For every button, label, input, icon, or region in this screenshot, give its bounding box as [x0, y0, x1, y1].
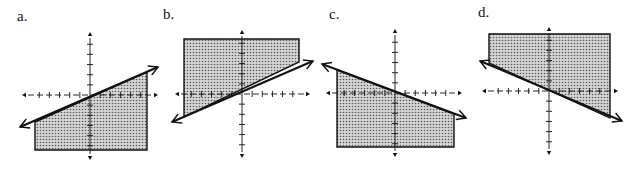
y-axis-up-arrow-icon: [88, 32, 92, 36]
x-axis-right-arrow-icon: [306, 92, 310, 96]
x-axis-left-arrow-icon: [482, 89, 486, 93]
y-axis-down-arrow-icon: [547, 151, 551, 155]
graph-c: [322, 29, 466, 157]
shaded-region: [35, 72, 147, 150]
y-axis-down-arrow-icon: [240, 154, 244, 158]
shaded-region: [489, 34, 610, 118]
x-axis-left-arrow-icon: [326, 91, 330, 95]
shaded-region: [184, 39, 299, 117]
graph-a: [20, 32, 158, 160]
x-axis-left-arrow-icon: [22, 93, 26, 97]
y-axis-up-arrow-icon: [393, 29, 397, 33]
x-axis-left-arrow-icon: [175, 92, 179, 96]
y-axis-down-arrow-icon: [88, 156, 92, 160]
shaded-region: [337, 70, 454, 147]
y-axis-up-arrow-icon: [547, 27, 551, 31]
y-axis-down-arrow-icon: [393, 153, 397, 157]
graphs-canvas: [0, 0, 642, 175]
x-axis-right-arrow-icon: [614, 89, 618, 93]
y-axis-up-arrow-icon: [240, 30, 244, 34]
x-axis-right-arrow-icon: [458, 91, 462, 95]
graph-d: [480, 27, 622, 155]
x-axis-right-arrow-icon: [154, 93, 158, 97]
graph-b: [172, 30, 313, 158]
